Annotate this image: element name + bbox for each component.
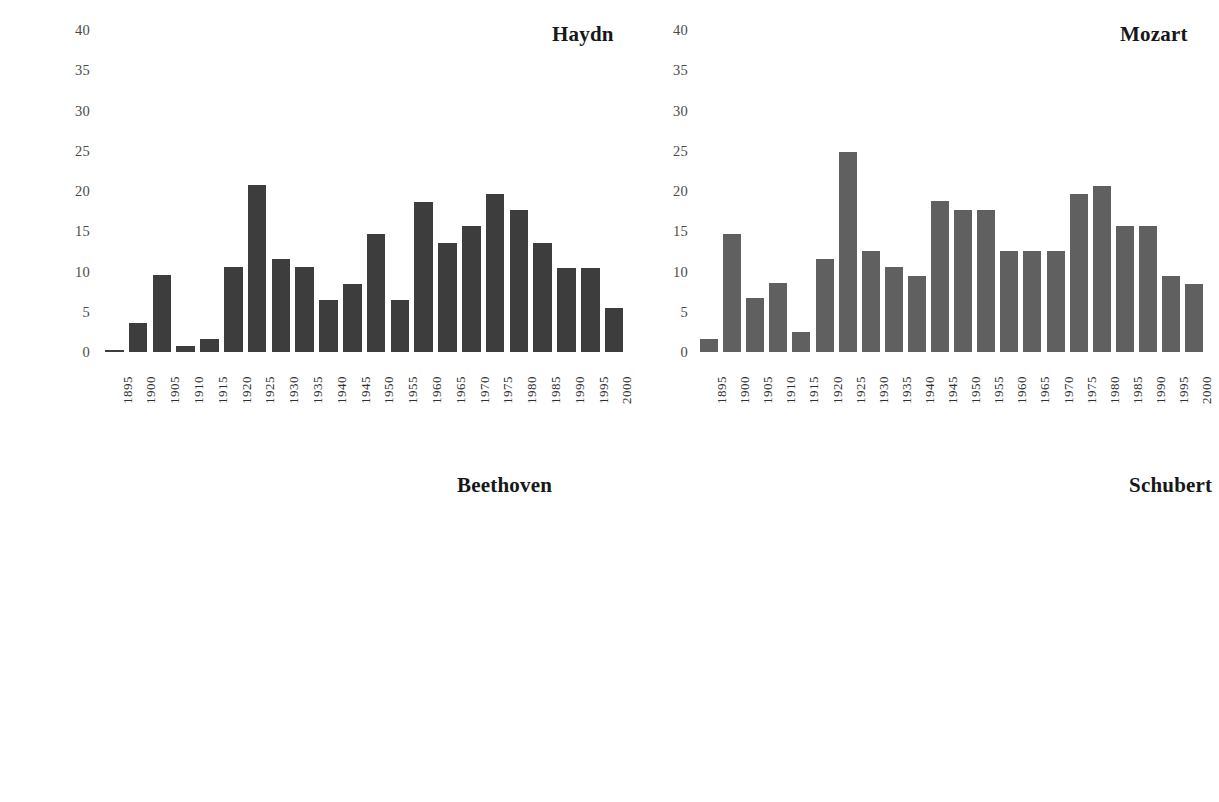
x-tick-label: 1980 <box>1107 376 1123 404</box>
x-tick-label: 1980 <box>524 376 540 404</box>
x-tick-label: 1935 <box>310 376 326 404</box>
x-tick-label: 1970 <box>1061 376 1077 404</box>
x-tick-label: 1930 <box>876 376 892 404</box>
bar-series-schubert <box>640 420 1219 802</box>
x-tick-label: 1985 <box>548 376 564 404</box>
x-tick-label: 1910 <box>783 376 799 404</box>
chart-panel-haydn: Haydn 0510152025303540 18951900190519101… <box>0 0 640 420</box>
x-tick-label: 1935 <box>899 376 915 404</box>
x-tick-label: 1910 <box>191 376 207 404</box>
x-tick-label: 1920 <box>830 376 846 404</box>
x-tick-label: 1995 <box>1176 376 1192 404</box>
x-tick-label: 1900 <box>737 376 753 404</box>
x-axis-haydn: 1895190019051910191519201925193019351940… <box>0 0 640 420</box>
x-tick-label: 2000 <box>619 376 635 404</box>
x-tick-label: 1945 <box>358 376 374 404</box>
x-tick-label: 1895 <box>120 376 136 404</box>
x-tick-label: 1945 <box>945 376 961 404</box>
x-tick-label: 1970 <box>477 376 493 404</box>
x-tick-label: 1990 <box>572 376 588 404</box>
x-tick-label: 1985 <box>1130 376 1146 404</box>
x-tick-label: 1930 <box>286 376 302 404</box>
x-tick-label: 1965 <box>1037 376 1053 404</box>
x-tick-label: 1995 <box>596 376 612 404</box>
x-tick-label: 1905 <box>760 376 776 404</box>
x-tick-label: 1975 <box>500 376 516 404</box>
x-axis-mozart: 1895190019051910191519201925193019351940… <box>640 0 1219 420</box>
x-tick-label: 1955 <box>991 376 1007 404</box>
x-tick-label: 1965 <box>453 376 469 404</box>
chart-panel-beethoven: Beethoven <box>0 420 640 802</box>
x-tick-label: 1960 <box>429 376 445 404</box>
x-tick-label: 1960 <box>1014 376 1030 404</box>
x-tick-label: 1950 <box>968 376 984 404</box>
x-tick-label: 1975 <box>1084 376 1100 404</box>
x-tick-label: 1925 <box>853 376 869 404</box>
x-tick-label: 1915 <box>215 376 231 404</box>
x-tick-label: 1895 <box>714 376 730 404</box>
x-tick-label: 2000 <box>1199 376 1215 404</box>
x-tick-label: 1920 <box>239 376 255 404</box>
x-tick-label: 1950 <box>381 376 397 404</box>
x-tick-label: 1990 <box>1153 376 1169 404</box>
bar-series-beethoven <box>0 420 640 802</box>
chart-panel-schubert: Schubert <box>640 420 1219 802</box>
x-tick-label: 1905 <box>167 376 183 404</box>
x-tick-label: 1900 <box>143 376 159 404</box>
x-tick-label: 1940 <box>922 376 938 404</box>
chart-panel-mozart: Mozart 0510152025303540 1895190019051910… <box>640 0 1219 420</box>
x-tick-label: 1955 <box>405 376 421 404</box>
x-tick-label: 1925 <box>262 376 278 404</box>
x-tick-label: 1940 <box>334 376 350 404</box>
figure-grid: Haydn 0510152025303540 18951900190519101… <box>0 0 1219 802</box>
x-tick-label: 1915 <box>806 376 822 404</box>
